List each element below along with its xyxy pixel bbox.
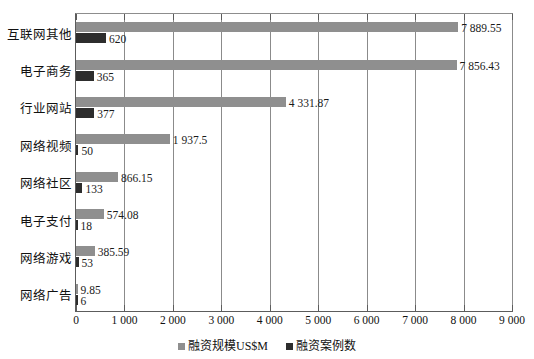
gridline — [270, 14, 271, 311]
gridline — [173, 14, 174, 311]
gridline — [124, 14, 125, 311]
tick-mark-top — [318, 14, 319, 20]
bar — [76, 33, 106, 43]
financing-bar-chart: 互联网其他电子商务行业网站网络视频网络社区电子支付网络游戏网络广告 7 889.… — [0, 0, 534, 359]
tick-mark-top — [367, 14, 368, 20]
tick-mark-bottom — [221, 305, 222, 311]
gridline — [512, 14, 513, 311]
bar-value-label: 50 — [81, 146, 93, 158]
bar-value-label: 365 — [97, 72, 114, 84]
x-axis-tick-label: 1 000 — [112, 315, 138, 327]
bar — [76, 108, 94, 118]
bar — [76, 97, 286, 107]
x-axis-tick-label: 0 — [73, 315, 79, 327]
bar — [76, 71, 94, 81]
bar — [76, 172, 118, 182]
bar — [76, 134, 170, 144]
tick-mark-bottom — [512, 305, 513, 311]
gridline — [367, 14, 368, 311]
tick-mark-top — [415, 14, 416, 20]
bar-value-label: 7 889.55 — [461, 23, 501, 35]
bar — [76, 145, 78, 155]
bar — [76, 284, 78, 294]
legend-item[interactable]: 融资规模US$M — [178, 336, 268, 354]
category-label: 电子支付 — [0, 211, 72, 230]
tick-mark-bottom — [367, 305, 368, 311]
bar-value-label: 866.15 — [121, 173, 153, 185]
x-axis-tick-label: 8 000 — [451, 315, 477, 327]
tick-mark-bottom — [173, 305, 174, 311]
bar — [76, 60, 457, 70]
bar-value-label: 18 — [81, 221, 93, 233]
bar-value-label: 53 — [82, 258, 94, 270]
legend-swatch-icon — [178, 343, 185, 350]
tick-mark-top — [124, 14, 125, 20]
category-label: 电子商务 — [0, 61, 72, 80]
category-label: 网络广告 — [0, 285, 72, 304]
bar-value-label: 4 331.87 — [289, 98, 329, 110]
x-axis-tick-label: 7 000 — [402, 315, 428, 327]
bar-value-label: 7 856.43 — [460, 61, 500, 73]
x-axis-tick-label: 5 000 — [305, 315, 331, 327]
tick-mark-bottom — [415, 305, 416, 311]
bar-value-label: 385.59 — [98, 247, 130, 259]
tick-mark-top — [270, 14, 271, 20]
tick-mark-top — [464, 14, 465, 20]
category-label: 互联网其他 — [0, 24, 72, 43]
legend-label: 融资案例数 — [296, 336, 356, 354]
x-axis-tick-label: 2 000 — [160, 315, 186, 327]
category-label: 网络游戏 — [0, 248, 72, 267]
gridline — [464, 14, 465, 311]
x-axis-tick-label: 3 000 — [208, 315, 234, 327]
legend-item[interactable]: 融资案例数 — [286, 336, 356, 354]
tick-mark-top — [76, 14, 77, 20]
gridline — [221, 14, 222, 311]
x-axis-tick-label: 4 000 — [257, 315, 283, 327]
tick-mark-top — [512, 14, 513, 20]
bar-value-label: 1 937.5 — [173, 135, 208, 147]
tick-mark-bottom — [464, 305, 465, 311]
tick-mark-bottom — [318, 305, 319, 311]
legend-swatch-icon — [286, 343, 293, 350]
bar — [76, 22, 458, 32]
bar-value-label: 133 — [85, 184, 102, 196]
category-label: 网络社区 — [0, 173, 72, 192]
bar-value-label: 574.08 — [107, 210, 139, 222]
plot-area: 7 889.556207 856.433654 331.873771 937.5… — [75, 13, 513, 312]
tick-mark-bottom — [124, 305, 125, 311]
gridline — [415, 14, 416, 311]
bar — [76, 183, 82, 193]
tick-mark-bottom — [76, 305, 77, 311]
category-label: 行业网站 — [0, 98, 72, 117]
x-axis-tick-label: 6 000 — [354, 315, 380, 327]
bar-value-label: 620 — [109, 34, 126, 46]
gridline — [318, 14, 319, 311]
bar — [76, 246, 95, 256]
tick-mark-bottom — [270, 305, 271, 311]
legend-label: 融资规模US$M — [188, 336, 268, 354]
bar — [76, 220, 78, 230]
category-label: 网络视频 — [0, 136, 72, 155]
bar — [76, 257, 79, 267]
bar — [76, 209, 104, 219]
bar — [76, 295, 78, 305]
bar-value-label: 377 — [97, 109, 114, 121]
x-axis-tick-label: 9 000 — [499, 315, 525, 327]
tick-mark-top — [221, 14, 222, 20]
chart-legend: 融资规模US$M融资案例数 — [0, 336, 534, 354]
tick-mark-top — [173, 14, 174, 20]
bar-value-label: 6 — [81, 296, 87, 308]
